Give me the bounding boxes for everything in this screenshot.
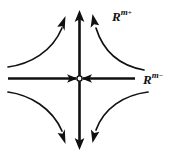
label-unstable-manifold: Rm+	[112, 8, 132, 24]
label-stable-sign: −	[159, 72, 163, 80]
label-unstable-superscript: m	[121, 7, 128, 17]
label-unstable-sign: +	[128, 9, 132, 17]
saddle-point-phase-portrait-figure: Rm+ Rm−	[0, 0, 181, 159]
horizontal-axis-stable-manifold	[8, 74, 135, 83]
trajectory-lower-right-path	[96, 92, 148, 130]
label-stable-superscript: m	[152, 70, 159, 80]
equilibrium-point-marker	[77, 76, 82, 81]
trajectory-upper-left-path	[8, 28, 62, 67]
trajectory-upper-right-arrowhead	[91, 14, 100, 28]
trajectory-upper-right-path	[96, 28, 144, 70]
trajectory-upper-left	[8, 16, 66, 67]
trajectory-lower-right-arrowhead	[91, 129, 100, 143]
label-unstable-base: R	[112, 9, 121, 24]
label-stable-manifold: Rm−	[143, 71, 163, 87]
trajectory-lower-right	[91, 92, 148, 143]
trajectory-lower-left	[8, 92, 66, 144]
label-stable-base: R	[143, 72, 152, 87]
trajectory-lower-left-path	[8, 92, 62, 131]
